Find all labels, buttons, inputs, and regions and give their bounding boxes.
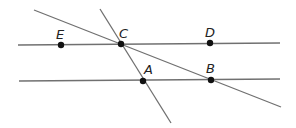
- point-a: [140, 78, 146, 84]
- transversal-CA: [100, 9, 171, 123]
- label-d: D: [205, 25, 215, 40]
- label-a: A: [143, 62, 153, 77]
- points-group: ECDAB: [56, 25, 215, 84]
- line-ECD: [18, 43, 280, 45]
- label-e: E: [56, 27, 65, 42]
- label-c: C: [119, 26, 129, 41]
- point-c: [118, 41, 124, 47]
- line-AB: [19, 79, 280, 81]
- geometry-diagram: ECDAB: [0, 0, 296, 128]
- transversal-CB: [34, 10, 281, 107]
- point-e: [58, 42, 64, 48]
- point-d: [207, 40, 213, 46]
- point-b: [208, 77, 214, 83]
- label-b: B: [206, 61, 215, 76]
